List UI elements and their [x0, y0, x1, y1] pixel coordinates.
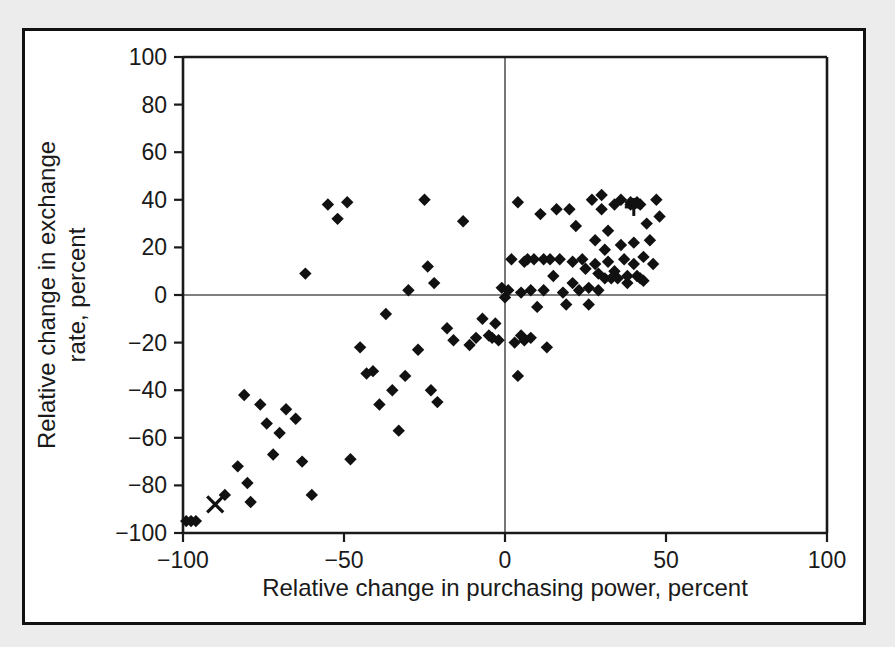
- data-point-diamond: [628, 236, 640, 248]
- data-point-diamond: [267, 448, 279, 460]
- data-point-diamond: [637, 251, 649, 263]
- data-point-diamond: [512, 196, 524, 208]
- data-point-diamond: [254, 398, 266, 410]
- data-point-diamond: [322, 198, 334, 210]
- data-point-diamond: [412, 344, 424, 356]
- y-tick-label: −100: [115, 520, 167, 546]
- data-point-diamond: [602, 255, 614, 267]
- data-point-diamond: [306, 489, 318, 501]
- data-point-diamond: [241, 477, 253, 489]
- x-tick-label: 0: [499, 547, 512, 573]
- data-point-diamond: [602, 225, 614, 237]
- data-point-diamond: [399, 370, 411, 382]
- data-point-diamond: [431, 396, 443, 408]
- data-point-diamond: [425, 384, 437, 396]
- y-axis-title-line2: rate, percent: [63, 227, 90, 362]
- data-point-diamond: [441, 322, 453, 334]
- data-point-diamond: [566, 255, 578, 267]
- x-axis-tick-labels: −100−50050100: [157, 547, 846, 573]
- data-point-diamond: [615, 239, 627, 251]
- x-tick-label: 100: [808, 547, 846, 573]
- data-point-diamond: [280, 403, 292, 415]
- y-tick-label: 20: [141, 234, 167, 260]
- data-point-diamond: [489, 317, 501, 329]
- data-point-diamond: [550, 203, 562, 215]
- data-point-diamond: [428, 277, 440, 289]
- x-axis-title: Relative change in purchasing power, per…: [262, 574, 748, 601]
- y-tick-label: 100: [129, 44, 167, 70]
- data-point-diamond: [341, 196, 353, 208]
- data-point-diamond: [547, 270, 559, 282]
- data-point-diamond: [541, 341, 553, 353]
- data-point-diamond: [640, 217, 652, 229]
- data-point-diamond: [583, 298, 595, 310]
- data-point-diamond: [457, 215, 469, 227]
- data-point-diamond: [386, 384, 398, 396]
- data-point-cross: [207, 496, 223, 512]
- x-tick-label: −50: [324, 547, 363, 573]
- data-point-diamond: [393, 424, 405, 436]
- scatter-chart: −100−50050100 −100−80−60−40−200204060801…: [0, 0, 895, 647]
- data-point-diamond: [422, 260, 434, 272]
- data-point-diamond: [650, 194, 662, 206]
- x-tick-label: −100: [157, 547, 209, 573]
- data-point-diamond: [557, 286, 569, 298]
- y-tick-label: 0: [154, 282, 167, 308]
- y-tick-label: −20: [128, 330, 167, 356]
- data-point-diamond: [447, 334, 459, 346]
- data-point-diamond: [418, 194, 430, 206]
- data-point-diamond: [647, 258, 659, 270]
- y-axis-title-line1: Relative change in exchange: [33, 141, 60, 449]
- data-point-diamond: [273, 427, 285, 439]
- data-point-diamond: [534, 208, 546, 220]
- data-point-diamond: [576, 253, 588, 265]
- data-point-diamond: [589, 234, 601, 246]
- y-tick-label: −40: [128, 377, 167, 403]
- data-point-diamond: [583, 282, 595, 294]
- data-point-diamond: [531, 301, 543, 313]
- y-tick-label: 80: [141, 92, 167, 118]
- data-point-diamond: [512, 370, 524, 382]
- data-point-diamond: [238, 389, 250, 401]
- data-point-diamond: [232, 460, 244, 472]
- data-point-diamond: [299, 267, 311, 279]
- data-point-diamond: [515, 286, 527, 298]
- y-tick-label: −60: [128, 425, 167, 451]
- axis-tick-marks: [174, 57, 827, 542]
- data-point-diamond: [331, 213, 343, 225]
- figure-root: −100−50050100 −100−80−60−40−200204060801…: [0, 0, 895, 647]
- data-point-diamond: [505, 253, 517, 265]
- data-point-diamond: [373, 398, 385, 410]
- data-point-diamond: [380, 308, 392, 320]
- data-point-diamond: [554, 253, 566, 265]
- y-tick-label: 40: [141, 187, 167, 213]
- data-point-diamond: [644, 234, 656, 246]
- y-tick-label: 60: [141, 139, 167, 165]
- y-axis-title: Relative change in exchange rate, percen…: [33, 141, 90, 449]
- data-point-diamond: [560, 298, 572, 310]
- data-point-markers: [180, 189, 666, 527]
- data-point-diamond: [570, 220, 582, 232]
- data-point-diamond: [261, 417, 273, 429]
- data-point-diamond: [476, 313, 488, 325]
- data-point-diamond: [595, 203, 607, 215]
- data-point-diamond: [599, 244, 611, 256]
- y-tick-label: −80: [128, 472, 167, 498]
- data-point-diamond: [354, 341, 366, 353]
- data-point-diamond: [563, 203, 575, 215]
- data-point-diamond: [290, 413, 302, 425]
- data-point-diamond: [244, 496, 256, 508]
- data-point-diamond: [653, 210, 665, 222]
- y-axis-tick-labels: −100−80−60−40−20020406080100: [115, 44, 167, 546]
- x-tick-label: 50: [653, 547, 679, 573]
- data-point-diamond: [344, 453, 356, 465]
- data-point-diamond: [296, 455, 308, 467]
